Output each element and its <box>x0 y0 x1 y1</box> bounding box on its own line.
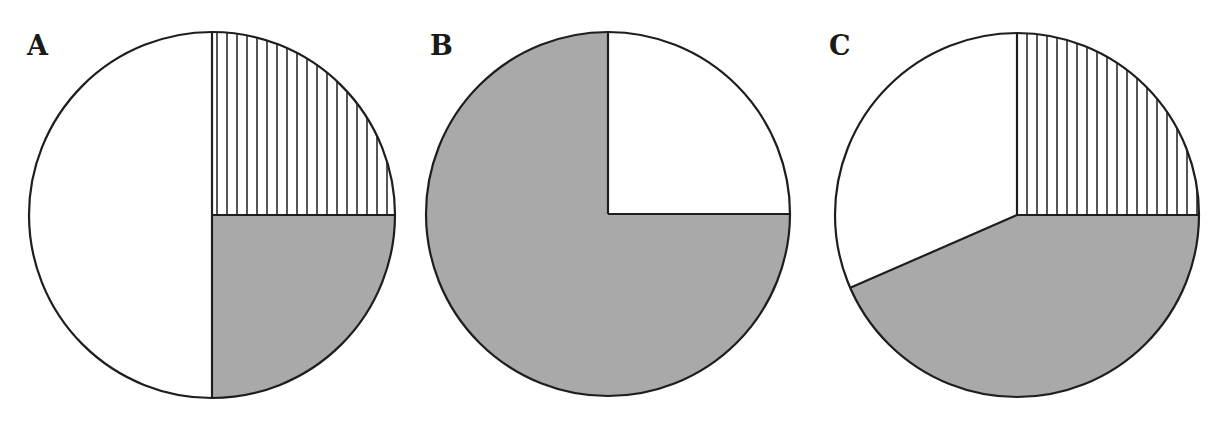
pie-b-slices <box>426 32 790 396</box>
pie-slice-gray <box>212 215 395 398</box>
pie-slice-hatched <box>212 32 395 215</box>
pie-slice-hatched <box>1017 33 1199 215</box>
pie-c-slices <box>835 33 1199 397</box>
pie-charts-figure: A B C <box>0 0 1208 439</box>
pie-chart-a: A <box>26 30 395 398</box>
pie-chart-b: B <box>426 30 790 396</box>
panel-label-c: C <box>829 30 851 61</box>
panel-label-a: A <box>26 30 49 61</box>
pie-slice-white <box>608 32 790 214</box>
panel-label-b: B <box>430 30 453 61</box>
pie-a-slices <box>29 32 395 398</box>
pie-chart-c: C <box>829 30 1199 397</box>
pie-slice-white <box>29 32 212 398</box>
